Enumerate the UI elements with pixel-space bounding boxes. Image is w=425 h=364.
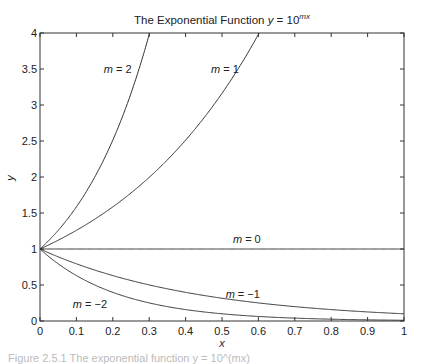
x-tick-label: 0.4 [178,325,193,337]
x-tick-label: 0.3 [142,325,157,337]
y-tick-label: 2 [31,171,37,183]
x-tick-label: 0.9 [360,325,375,337]
y-tick-label: 1 [31,243,37,255]
x-tick-label: 0.8 [324,325,339,337]
x-axis-label: x [218,337,225,349]
y-tick-label: 1.5 [22,207,37,219]
y-tick-label: 0.5 [22,279,37,291]
chart-title: The Exponential Function y = 10mx [134,12,311,26]
y-axis-label: y [4,174,16,182]
x-tick-label: 0.7 [287,325,302,337]
curves [40,33,404,320]
curve-labels: m = 2m = 1m = 0m = −1m = −2 [73,63,261,310]
x-tick-label: 0 [37,325,43,337]
curve-label: m = 1 [211,63,239,75]
y-tick-label: 0 [31,315,37,327]
x-tick-label: 0.1 [69,325,84,337]
x-tick-label: 1 [401,325,407,337]
x-axis-ticks: 00.10.20.30.40.50.60.70.80.91 [37,33,407,337]
curve-label: m = 0 [233,233,261,245]
curve-m-2 [40,33,150,249]
figure-caption: Figure 2.5.1 The exponential function y … [8,352,250,364]
curve-label: m = −2 [73,298,107,310]
x-tick-label: 0.6 [251,325,266,337]
y-tick-label: 3 [31,99,37,111]
y-tick-label: 4 [31,27,37,39]
curve-label: m = 2 [104,63,132,75]
y-tick-label: 3.5 [22,63,37,75]
plot-area: 00.10.20.30.40.50.60.70.80.91 00.511.522… [22,27,407,337]
x-tick-label: 0.2 [105,325,120,337]
curve-label: m = −1 [226,288,260,300]
y-tick-label: 2.5 [22,135,37,147]
x-tick-label: 0.5 [214,325,229,337]
